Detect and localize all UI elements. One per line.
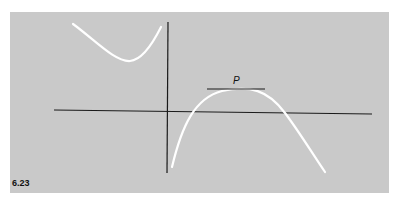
x-axis [54, 110, 372, 114]
left-branch-curve [73, 24, 161, 61]
figure-number: 6.23 [12, 178, 30, 188]
point-p-label: P [233, 75, 240, 86]
y-axis [167, 22, 168, 173]
right-branch-curve [172, 89, 325, 172]
function-graph [0, 0, 397, 207]
